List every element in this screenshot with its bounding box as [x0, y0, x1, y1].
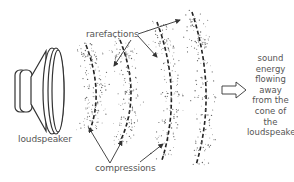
compressions-label: compressions	[95, 163, 156, 174]
compression-arrows	[89, 128, 163, 163]
wavefront-3	[157, 22, 171, 160]
loudspeaker-icon	[15, 48, 64, 134]
flow-line-5: from the	[247, 95, 294, 106]
flow-arrow-icon	[222, 82, 246, 98]
flow-description: sound energy flowing away from the cone …	[247, 53, 294, 138]
rarefactions-label: rarefactions	[86, 29, 139, 40]
flow-line-4: away	[247, 85, 294, 96]
flow-line-1: sound	[247, 53, 294, 64]
wavefront-4	[192, 12, 206, 165]
flow-line-3: flowing	[247, 74, 294, 85]
flow-line-7: loudspeaker	[247, 127, 294, 138]
flow-line-2: energy	[247, 64, 294, 75]
rarefaction-arrows	[114, 20, 180, 66]
loudspeaker-label: loudspeaker	[18, 134, 72, 145]
flow-line-6: cone of the	[247, 106, 294, 127]
sound-wave-diagram: rarefactions compressions loudspeaker so…	[0, 0, 294, 182]
